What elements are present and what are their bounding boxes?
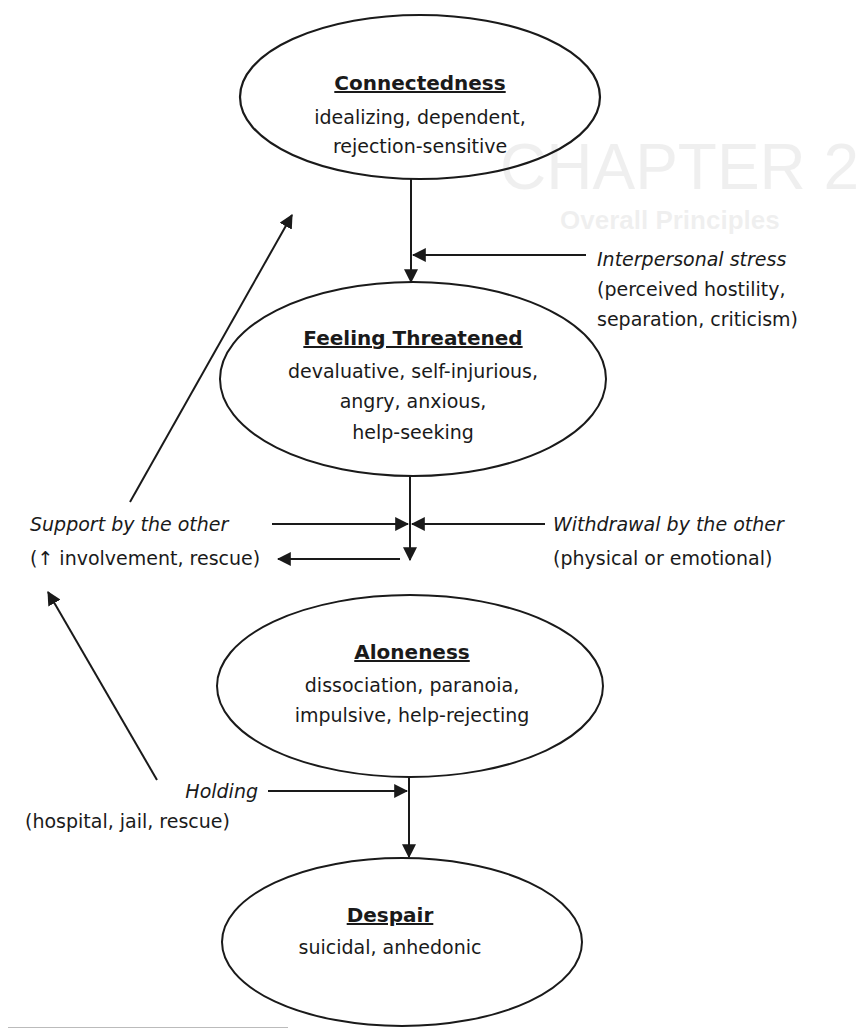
label-interpersonal-stress-sub-2: separation, criticism): [597, 308, 798, 330]
node-aloneness-title: Aloneness: [354, 640, 470, 664]
node-aloneness-desc-2: impulsive, help-rejecting: [295, 704, 530, 726]
label-support-sub: (↑ involvement, rescue): [30, 547, 260, 569]
node-threatened-desc-3: help-seeking: [352, 421, 474, 443]
node-threatened-desc-1: devaluative, self-injurious,: [288, 360, 538, 382]
node-threatened-desc-2: angry, anxious,: [340, 390, 487, 412]
node-despair-desc-1: suicidal, anhedonic: [299, 936, 482, 958]
label-interpersonal-stress-sub-1: (perceived hostility,: [597, 278, 786, 300]
label-interpersonal-stress: Interpersonal stress: [597, 248, 786, 270]
node-connectedness-title: Connectedness: [334, 71, 505, 95]
node-despair-title: Despair: [347, 903, 434, 927]
node-connectedness-desc-2: rejection-sensitive: [333, 135, 507, 157]
node-connectedness-desc-1: idealizing, dependent,: [314, 106, 526, 128]
label-withdrawal-sub: (physical or emotional): [553, 547, 772, 569]
node-aloneness-desc-1: dissociation, paranoia,: [305, 674, 519, 696]
page-bottom-rule: [8, 1027, 288, 1028]
arrow-holding-to-support: [48, 592, 157, 780]
arrow-support-to-connectedness: [130, 215, 292, 502]
label-holding: Holding: [185, 780, 258, 802]
label-holding-sub: (hospital, jail, rescue): [25, 810, 230, 832]
label-support: Support by the other: [30, 513, 230, 535]
label-withdrawal: Withdrawal by the other: [553, 513, 785, 535]
node-threatened-title: Feeling Threatened: [303, 326, 522, 350]
